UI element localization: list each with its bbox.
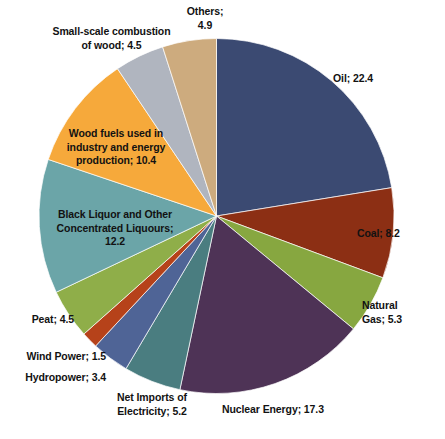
pie-slice-oil [217, 39, 392, 217]
pie-slice-group [39, 39, 394, 394]
pie-chart: Oil; 22.4 Coal; 8.2 Natural Gas; 5.3 Nuc… [0, 0, 445, 439]
pie-chart-canvas [0, 0, 445, 439]
